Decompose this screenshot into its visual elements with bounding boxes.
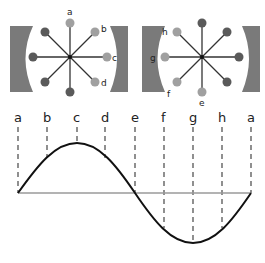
wave-label-f: f xyxy=(161,110,166,125)
left-dot-h xyxy=(41,28,50,37)
right-label-g: g xyxy=(150,53,156,63)
left-star-hub xyxy=(68,55,72,59)
left-dot-d xyxy=(91,78,100,87)
right-dot-f xyxy=(173,78,182,87)
right-dot-h xyxy=(173,28,182,37)
right-dot-lower-right xyxy=(223,78,232,87)
wave-label-g: g xyxy=(189,110,197,125)
wave-label-c: c xyxy=(73,110,80,125)
left-dot-e xyxy=(66,88,75,97)
right-star-hub xyxy=(200,55,204,59)
left-dot-c xyxy=(103,53,112,62)
wave-label-d: d xyxy=(101,110,109,125)
left-dot-a xyxy=(66,19,75,28)
left-label-c: c xyxy=(112,53,117,63)
left-dot-f xyxy=(41,78,50,87)
right-star-figure: h g f e xyxy=(142,19,260,109)
left-label-a: a xyxy=(67,7,73,17)
left-dot-g xyxy=(29,53,38,62)
wave-label-a-end: a xyxy=(247,110,255,125)
rotating-coil-sine-diagram: a b c d h g f e xyxy=(0,0,265,263)
right-label-f: f xyxy=(167,89,171,99)
left-dot-b xyxy=(91,28,100,37)
left-star-figure: a b c d xyxy=(10,7,128,97)
wave-dashed-guides xyxy=(18,127,251,243)
left-label-d: d xyxy=(101,78,107,88)
wave-label-h: h xyxy=(218,110,226,125)
right-dot-e xyxy=(198,88,207,97)
right-dot-upper-right xyxy=(223,28,232,37)
right-pole-piece-right xyxy=(242,26,260,92)
left-label-b: b xyxy=(101,24,107,34)
wave-label-a-start: a xyxy=(14,110,22,125)
right-label-e: e xyxy=(199,98,205,108)
right-dot-right xyxy=(235,53,244,62)
wave-label-b: b xyxy=(43,110,51,125)
sine-wave-graph: a b c d e f g h a xyxy=(14,110,255,243)
right-dot-g xyxy=(161,53,170,62)
right-label-h: h xyxy=(162,27,168,37)
wave-label-e: e xyxy=(131,110,139,125)
right-dot-top xyxy=(198,19,207,28)
